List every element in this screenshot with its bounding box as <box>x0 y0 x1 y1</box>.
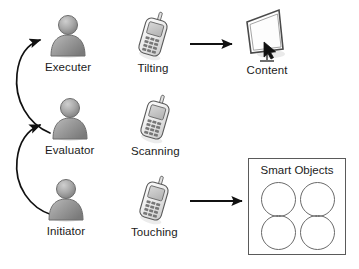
smart-objects-circles <box>256 182 340 250</box>
smart-object-circle <box>261 215 296 250</box>
actor-initiator[interactable]: Initiator <box>45 177 87 238</box>
mobile-phone-icon <box>131 9 175 61</box>
mobile-phone-icon <box>132 173 176 225</box>
action-touching[interactable]: Touching <box>131 173 178 239</box>
target-content-label: Content <box>247 64 288 77</box>
target-content[interactable]: Content <box>237 6 297 77</box>
person-icon <box>45 177 87 224</box>
actor-executer[interactable]: Executer <box>45 13 91 74</box>
action-tilting-label: Tilting <box>138 62 169 75</box>
smart-objects-title: Smart Objects <box>249 164 345 176</box>
smart-object-circle <box>300 215 335 250</box>
action-scanning[interactable]: Scanning <box>131 92 180 158</box>
mobile-phone-icon <box>133 92 177 144</box>
person-icon <box>49 96 91 143</box>
action-touching-label: Touching <box>131 226 178 239</box>
smart-object-circle <box>261 182 296 217</box>
display-screen-icon <box>237 6 297 63</box>
diagram-canvas: Executer <box>0 0 359 269</box>
smart-objects-box[interactable]: Smart Objects <box>248 158 346 255</box>
actor-evaluator[interactable]: Evaluator <box>45 96 94 157</box>
person-icon <box>47 13 89 60</box>
action-scanning-label: Scanning <box>131 145 180 158</box>
actor-evaluator-label: Evaluator <box>45 144 94 157</box>
smart-object-circle <box>300 182 335 217</box>
actor-initiator-label: Initiator <box>47 225 86 238</box>
action-tilting[interactable]: Tilting <box>131 9 175 75</box>
actor-executer-label: Executer <box>45 61 91 74</box>
